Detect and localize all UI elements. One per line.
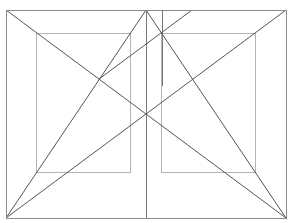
composition-diagram: [0, 0, 291, 223]
